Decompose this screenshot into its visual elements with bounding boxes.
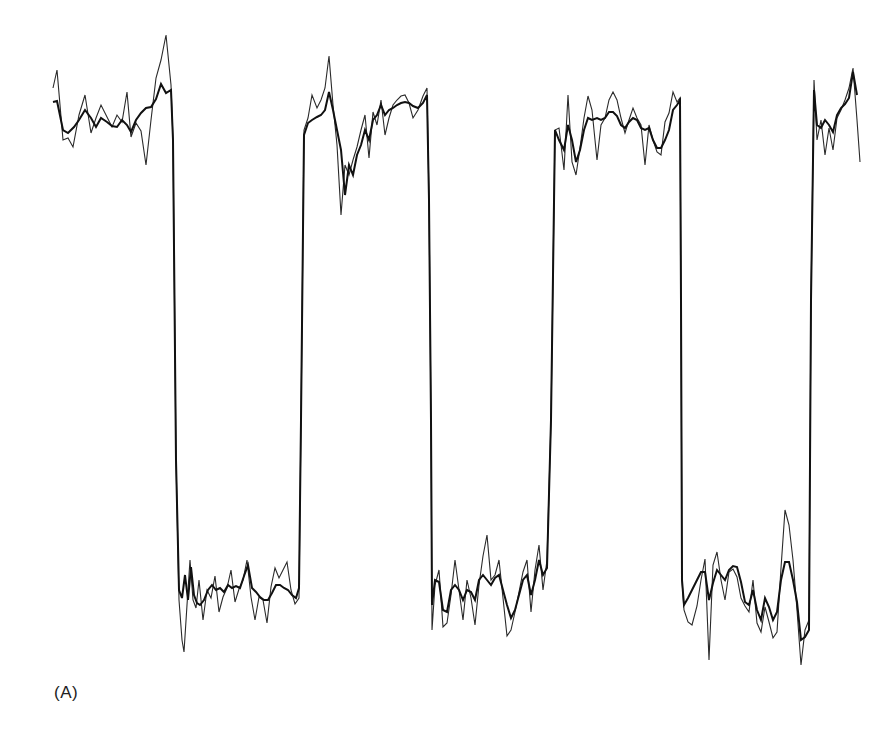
square-wave-plot (0, 0, 896, 755)
figure: (A) (0, 0, 896, 755)
series-smoothed-line (53, 72, 857, 640)
panel-label: (A) (54, 683, 78, 703)
